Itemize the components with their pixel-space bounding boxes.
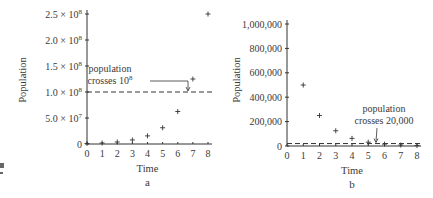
data-point — [145, 133, 150, 138]
y-tick-label: 5.0 × 107 — [45, 112, 82, 124]
annotation-text: crosses 108 — [88, 74, 133, 86]
panel-label: b — [349, 178, 355, 190]
data-point — [206, 12, 211, 17]
y-tick-label: 200,000 — [250, 116, 283, 127]
x-tick-label: 7 — [190, 148, 195, 159]
x-tick-label: 2 — [317, 150, 322, 161]
x-tick-label: 6 — [175, 148, 180, 159]
x-tick-label: 7 — [398, 150, 403, 161]
x-tick-label: 8 — [415, 150, 420, 161]
y-tick-label: 0 — [277, 141, 282, 152]
x-tick-label: 4 — [145, 148, 150, 159]
x-tick-label: 1 — [100, 148, 105, 159]
y-tick-label: 1.5 × 108 — [45, 60, 82, 72]
chart-panel-a: 01234567805.0 × 1071.0 × 1081.5 × 1082.0… — [17, 8, 212, 189]
x-tick-label: 0 — [285, 150, 290, 161]
data-point — [175, 109, 180, 114]
y-tick-label: 800,000 — [250, 43, 283, 54]
x-axis-label: Time — [341, 165, 363, 176]
data-point — [190, 77, 195, 82]
annotation-text: population — [363, 103, 406, 114]
x-tick-label: 2 — [115, 148, 120, 159]
x-tick-label: 1 — [301, 150, 306, 161]
data-point — [160, 125, 165, 130]
y-tick-label: 1.0 × 108 — [45, 86, 82, 98]
y-tick-label: 600,000 — [250, 67, 283, 78]
x-tick-label: 3 — [333, 150, 338, 161]
data-point — [301, 83, 306, 88]
x-tick-label: 3 — [130, 148, 135, 159]
x-tick-label: 0 — [85, 148, 90, 159]
annotation-text: population — [89, 63, 132, 74]
y-tick-label: 2.0 × 108 — [45, 34, 82, 46]
panel-label: a — [145, 176, 150, 188]
y-tick-label: 0 — [77, 139, 82, 150]
annotation-arrow — [150, 81, 188, 90]
y-tick-label: 1,000,000 — [242, 19, 282, 30]
x-tick-label: 5 — [160, 148, 165, 159]
annotation-text: crosses 20,000 — [355, 115, 414, 126]
annotation-arrow — [376, 128, 377, 142]
chart-panel-b: 0123456780200,000400,000600,000800,0001,… — [231, 19, 421, 191]
x-tick-label: 5 — [366, 150, 371, 161]
data-point — [333, 128, 338, 133]
x-tick-label: 4 — [350, 150, 355, 161]
y-tick-label: 400,000 — [250, 92, 283, 103]
y-axis-label: Population — [231, 57, 242, 103]
data-point — [100, 140, 105, 145]
data-point — [130, 137, 135, 142]
figure: 01234567805.0 × 1071.0 × 1081.5 × 1082.0… — [0, 0, 433, 198]
data-point — [85, 141, 90, 146]
x-tick-label: 6 — [382, 150, 387, 161]
y-tick-label: 2.5 × 108 — [45, 8, 82, 20]
data-point — [350, 136, 355, 141]
data-point — [317, 113, 322, 118]
x-tick-label: 8 — [206, 148, 211, 159]
x-axis-label: Time — [137, 163, 159, 174]
y-axis-label: Population — [17, 57, 28, 103]
